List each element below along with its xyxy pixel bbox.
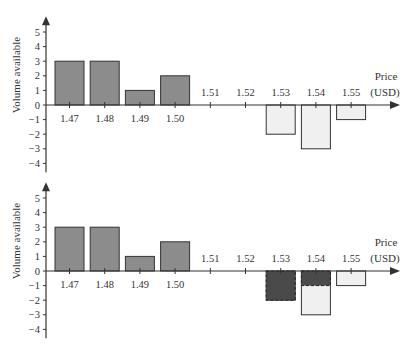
y-tick-label: 5 [35, 27, 40, 38]
y-tick-label: 2 [35, 70, 40, 81]
x-tick-label: 1.47 [60, 279, 78, 290]
y-tick-label: 4 [35, 41, 41, 52]
x-tick-label: 1.52 [236, 87, 254, 98]
y-tick-label: 2 [35, 236, 40, 247]
bid-bar-1.50 [161, 76, 190, 105]
bid-bar-1.48 [90, 61, 119, 105]
x-axis-title-price: Price [375, 236, 398, 248]
x-tick-label: 1.52 [236, 253, 254, 264]
y-tick-label: −3 [29, 143, 40, 154]
x-tick-label: 1.47 [60, 113, 78, 124]
x-tick-label: 1.53 [272, 253, 290, 264]
y-tick-label: 3 [35, 56, 40, 67]
y-tick-label: 1 [35, 85, 40, 96]
x-axis-arrow-icon [390, 101, 400, 109]
x-tick-label: 1.48 [96, 113, 114, 124]
y-tick-label: 0 [35, 100, 40, 111]
x-tick-label: 1.54 [307, 87, 326, 98]
y-tick-label: −1 [29, 280, 40, 291]
y-tick-label: −2 [29, 129, 40, 140]
executed-bar-1.53 [266, 271, 295, 300]
y-tick-label: −4 [29, 158, 41, 169]
x-axis-title-price: Price [375, 70, 398, 82]
chart-panel-2: 543210−1−2−3−41.471.481.491.501.511.521.… [10, 182, 400, 338]
bid-bar-1.47 [55, 227, 84, 271]
y-tick-label: −2 [29, 295, 40, 306]
order-book-charts: 543210−1−2−3−41.471.481.491.501.511.521.… [0, 0, 402, 347]
y-axis-arrow-icon [42, 182, 50, 191]
y-tick-label: 0 [35, 266, 40, 277]
x-tick-label: 1.55 [342, 87, 360, 98]
x-axis-title-unit: (USD) [370, 252, 400, 265]
y-axis-title: Volume available [10, 37, 22, 114]
y-tick-label: 4 [35, 207, 41, 218]
y-tick-label: 3 [35, 222, 40, 233]
y-axis-title: Volume available [10, 203, 22, 280]
x-tick-label: 1.53 [272, 87, 290, 98]
y-tick-label: 1 [35, 251, 40, 262]
y-axis-arrow-icon [42, 16, 50, 25]
x-tick-label: 1.51 [201, 253, 219, 264]
x-axis-arrow-icon [390, 267, 400, 275]
chart-panel-1: 543210−1−2−3−41.471.481.491.501.511.521.… [10, 16, 400, 172]
x-tick-label: 1.49 [131, 279, 149, 290]
bid-bar-1.48 [90, 227, 119, 271]
x-tick-label: 1.54 [307, 253, 326, 264]
y-tick-label: −3 [29, 309, 40, 320]
bid-bar-1.47 [55, 61, 84, 105]
y-tick-label: −1 [29, 114, 40, 125]
y-tick-label: −4 [29, 324, 41, 335]
ask-bar-1.53 [266, 105, 295, 134]
x-tick-label: 1.49 [131, 113, 149, 124]
ask-bar-1.54 [301, 105, 330, 149]
y-tick-label: 5 [35, 193, 40, 204]
x-tick-label: 1.55 [342, 253, 360, 264]
x-axis-title-unit: (USD) [370, 86, 400, 99]
x-tick-label: 1.50 [166, 279, 184, 290]
x-tick-label: 1.48 [96, 279, 114, 290]
x-tick-label: 1.51 [201, 87, 219, 98]
bid-bar-1.50 [161, 242, 190, 271]
x-tick-label: 1.50 [166, 113, 184, 124]
